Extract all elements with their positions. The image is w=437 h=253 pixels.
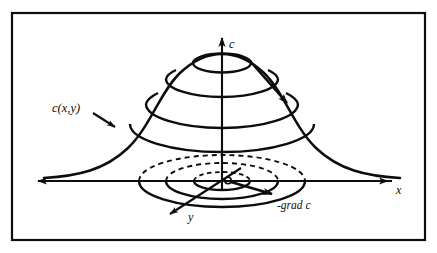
steepest-descent-arrow [250,61,287,103]
surface-contour-lower-rim-left [146,93,158,104]
gradient-label: -grad c [277,199,311,212]
x-axis-label: x [395,183,402,197]
y-axis-label: y [187,210,194,224]
surface-contour-lower-rim-right [286,93,298,104]
surface-diagram-svg: c(x,y) c x y -grad c [0,0,437,253]
c-axis-label: c [229,37,235,51]
surface-label: c(x,y) [52,101,80,115]
surface-label-pointer-arrow [93,113,115,127]
figure-canvas: c(x,y) c x y -grad c [0,0,437,253]
